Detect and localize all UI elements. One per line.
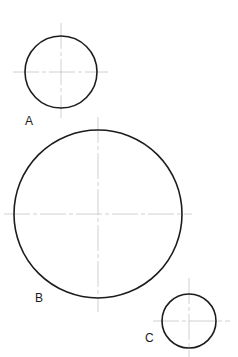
circle-group-b: B — [4, 117, 192, 312]
circle-diagram: A B C — [0, 0, 238, 357]
circle-group-a: A — [13, 23, 108, 128]
circle-c-label: C — [145, 331, 154, 345]
circle-group-c: C — [145, 278, 230, 357]
circle-b-label: B — [35, 291, 43, 305]
circle-a-label: A — [25, 114, 33, 128]
